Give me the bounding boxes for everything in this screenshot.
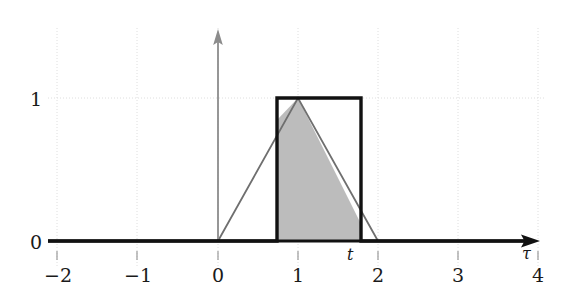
x-tick-label-0: 0 <box>212 264 224 286</box>
t-marker-label: t <box>347 245 353 264</box>
x-tick-label-1: 1 <box>292 264 304 286</box>
y-tick-label-1: 1 <box>30 88 42 110</box>
x-tick-label-3: 3 <box>452 264 464 286</box>
plot-canvas <box>0 0 567 306</box>
convolution-overlap-figure: 1 0 −2 −1 0 1 2 3 4 t τ <box>0 0 567 306</box>
y-tick-label-0: 0 <box>30 231 42 253</box>
x-axis-ticks <box>57 251 538 260</box>
y-axis <box>213 29 223 241</box>
tau-axis-label: τ <box>522 244 531 263</box>
overlap-shaded-region <box>277 98 361 241</box>
x-tick-label--2: −2 <box>44 264 72 286</box>
x-tick-label-2: 2 <box>372 264 384 286</box>
x-tick-label-4: 4 <box>532 264 544 286</box>
x-tick-label--1: −1 <box>124 264 152 286</box>
